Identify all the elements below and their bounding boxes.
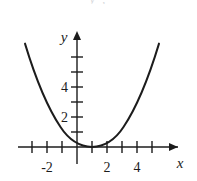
- parabola-curve: [25, 44, 159, 147]
- x-axis-arrow-icon: [169, 143, 178, 151]
- x-tick-label-2: 2: [104, 160, 111, 175]
- x-axis-label: x: [176, 155, 184, 171]
- y-tick-label-4: 4: [61, 80, 68, 95]
- y-tick-labels: 2 4: [61, 80, 68, 125]
- figure-root: y ,: [0, 0, 197, 181]
- y-axis-label: y: [59, 29, 68, 45]
- x-tick-label-neg2: -2: [41, 160, 53, 175]
- parabola-plot: -2 2 4 2 4 y x: [0, 0, 197, 181]
- x-tick-labels: -2 2 4: [41, 160, 140, 175]
- y-axis-arrow-icon: [73, 31, 81, 40]
- y-tick-label-2: 2: [61, 110, 68, 125]
- x-tick-label-4: 4: [134, 160, 141, 175]
